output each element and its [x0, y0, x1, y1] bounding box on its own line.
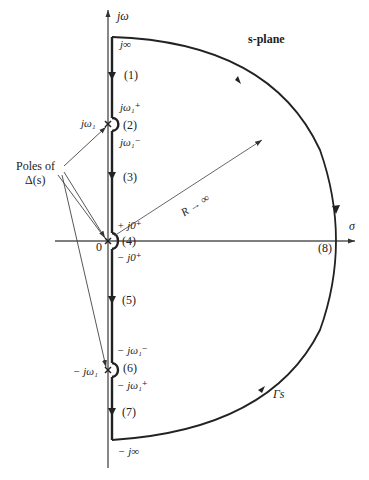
segment-label-3: (3) — [123, 170, 137, 184]
segment-label-7: (7) — [122, 405, 136, 419]
poles-annotation-line1: Poles of — [16, 159, 55, 173]
segment-label-6: (6) — [123, 361, 137, 375]
arrow-down-icon — [108, 296, 116, 304]
arrow-icon — [235, 76, 241, 84]
nyquist-contour-diagram: jω j∞ s-plane (1) jω₁⁺ jω₁ (2) jω₁⁻ Pole… — [0, 0, 369, 480]
s-plane-title: s-plane — [248, 32, 285, 46]
arrow-icon — [258, 386, 265, 393]
point-label-jw1-plus: jω₁⁺ — [118, 101, 141, 113]
segment-label-2: (2) — [123, 118, 137, 132]
point-label-neg-jw1: − jω₁ — [73, 365, 98, 377]
point-label-neg-jw1-plus: − jω₁⁺ — [117, 379, 148, 391]
point-label-jw1: jω₁ — [79, 117, 96, 129]
arrow-down-icon — [108, 408, 116, 416]
point-label-jw1-minus: jω₁⁻ — [118, 136, 141, 148]
arrow-up-icon — [332, 205, 340, 214]
arrow-down-icon — [108, 72, 116, 80]
poles-annotation-line2: Δ(s) — [25, 173, 45, 187]
point-label-neg-j0-plus: − j0⁺ — [117, 251, 142, 263]
neg-j-infinity-label: − j∞ — [118, 445, 139, 457]
segment-label-4: (4) — [122, 234, 136, 248]
point-label-j0-plus: + j0⁺ — [117, 219, 142, 231]
segment-label-1: (1) — [124, 68, 138, 82]
point-label-neg-jw1-minus: − jω₁⁻ — [117, 344, 148, 356]
j-infinity-label: j∞ — [118, 38, 131, 50]
contour-indent-2 — [112, 118, 118, 131]
contour-name-label: Γs — [272, 387, 285, 401]
origin-label: 0 — [96, 240, 102, 254]
contour-indent-6 — [112, 363, 118, 377]
segment-label-5: (5) — [122, 293, 136, 307]
jw-axis-label: jω — [115, 9, 129, 23]
segment-label-8: (8) — [318, 241, 332, 255]
sigma-axis-label: σ — [349, 219, 356, 233]
radius-label: R → ∞ — [178, 191, 212, 219]
arrow-down-icon — [108, 172, 116, 180]
